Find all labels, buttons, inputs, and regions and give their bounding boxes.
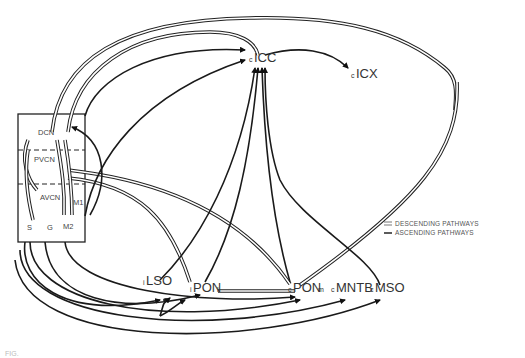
- nucleus-icc: c ICC: [249, 50, 276, 65]
- svg-text:PON: PON: [293, 280, 321, 295]
- svg-text:m: m: [318, 286, 324, 293]
- label-m2: M2: [63, 222, 73, 231]
- legend-descending: DESCENDING PATHWAYS: [395, 220, 479, 227]
- svg-text:MSO: MSO: [375, 280, 405, 295]
- nucleus-icx: c ICX: [351, 66, 378, 81]
- label-avcn: AVCN: [40, 193, 60, 202]
- legend: DESCENDING PATHWAYS ASCENDING PATHWAYS: [384, 220, 479, 236]
- label-g: G: [47, 223, 53, 232]
- label-pvcn: PVCN: [34, 155, 55, 164]
- figure-caption: FIG.: [5, 350, 19, 357]
- svg-text:c: c: [351, 72, 355, 79]
- svg-text:i: i: [190, 286, 192, 293]
- svg-text:i: i: [143, 279, 145, 286]
- label-dcn: DCN: [38, 128, 54, 137]
- auditory-pathway-diagram: c ICC c ICX i LSO i PON l c PON m c MNTB…: [0, 0, 525, 358]
- svg-text:MNTB: MNTB: [336, 280, 373, 295]
- nucleus-lso: i LSO: [143, 273, 172, 288]
- svg-text:c: c: [249, 56, 253, 63]
- svg-text:ICC: ICC: [254, 50, 276, 65]
- label-m1: M1: [73, 198, 83, 207]
- svg-text:c: c: [370, 286, 374, 293]
- nucleus-ponl: i PON l: [190, 280, 221, 295]
- svg-text:c: c: [288, 286, 292, 293]
- nucleus-ponm: c PON m: [288, 280, 324, 295]
- svg-text:c: c: [331, 286, 335, 293]
- svg-text:LSO: LSO: [146, 273, 172, 288]
- legend-ascending: ASCENDING PATHWAYS: [395, 229, 474, 236]
- nucleus-mntb: c MNTB: [331, 280, 373, 295]
- nucleus-mso: c MSO: [370, 280, 405, 295]
- svg-text:ICX: ICX: [356, 66, 378, 81]
- label-s: S: [27, 223, 32, 232]
- descending-pathways: [25, 18, 457, 300]
